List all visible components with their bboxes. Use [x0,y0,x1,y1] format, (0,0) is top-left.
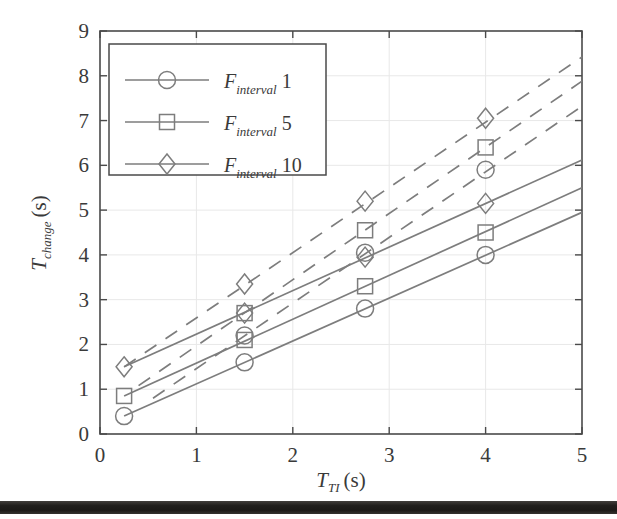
data-point-marker [358,223,373,238]
figure-container: 012345 0123456789 TTI(s) Tchange(s) Fint… [0,0,617,519]
x-tick-label: 5 [577,443,588,467]
series-line [124,160,582,367]
svg-text:TTI(s): TTI(s) [316,468,365,495]
y-tick-label: 0 [79,422,90,446]
x-tick-label: 2 [288,443,299,467]
line-chart: 012345 0123456789 TTI(s) Tchange(s) Fint… [0,0,617,519]
y-axis-tick-labels: 0123456789 [79,19,90,446]
x-axis-title: TTI(s) [316,468,365,495]
x-tick-label: 4 [480,443,491,467]
x-axis-title-sub: TI [328,480,340,495]
x-tick-label: 0 [95,443,106,467]
y-tick-label: 5 [79,198,90,222]
y-axis-title: Tchange(s) [27,195,54,270]
scan-artifact-bar [0,501,617,514]
svg-text:Tchange(s): Tchange(s) [27,195,54,270]
x-tick-label: 3 [384,443,395,467]
y-tick-label: 8 [79,64,90,88]
series-line [124,212,582,416]
y-tick-label: 9 [79,19,90,43]
y-tick-label: 2 [79,332,90,356]
y-tick-label: 1 [79,377,90,401]
y-axis-title-sub: change [39,221,54,259]
y-axis-title-unit: (s) [27,195,51,217]
data-point-marker [237,274,253,294]
y-tick-label: 6 [79,153,90,177]
x-axis-title-unit: (s) [344,468,366,492]
y-tick-label: 7 [79,109,90,133]
x-tick-label: 1 [191,443,202,467]
legend: Finterval1Finterval5Finterval10 [109,44,326,181]
y-tick-label: 4 [79,243,90,267]
series-line [124,188,582,396]
y-tick-label: 3 [79,288,90,312]
x-axis-tick-labels: 012345 [95,443,588,467]
